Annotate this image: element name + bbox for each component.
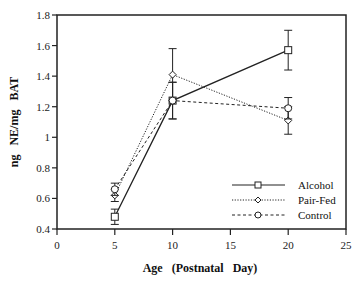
square-marker-icon xyxy=(255,182,261,188)
series-control xyxy=(111,82,292,195)
diamond-marker-icon xyxy=(169,71,176,78)
x-axis-ticks: 0510152025 xyxy=(54,229,352,251)
x-tick-label: 10 xyxy=(167,239,179,251)
x-tick-label: 5 xyxy=(112,239,118,251)
y-tick-label: 1.2 xyxy=(36,101,50,113)
y-tick-label: 1.6 xyxy=(36,40,50,52)
circle-marker-icon xyxy=(255,212,261,218)
series-layer xyxy=(111,30,292,224)
y-tick-label: 0.6 xyxy=(36,192,50,204)
y-axis-ticks: 0.40.60.811.21.41.61.8 xyxy=(36,9,57,235)
line-chart: 0.40.60.811.21.41.61.8 0510152025 Age (P… xyxy=(0,0,362,289)
x-axis-title: Age (Postnatal Day) xyxy=(143,261,258,275)
circle-marker-icon xyxy=(169,97,176,104)
x-tick-label: 25 xyxy=(341,239,353,251)
legend-item-control: Control xyxy=(232,209,332,221)
y-tick-label: 1 xyxy=(45,131,51,143)
diamond-marker-icon xyxy=(255,197,261,203)
series-pair-fed xyxy=(111,49,292,202)
x-tick-label: 15 xyxy=(225,239,237,251)
y-tick-label: 1.8 xyxy=(36,9,50,21)
legend-label-control: Control xyxy=(298,209,332,221)
x-tick-label: 20 xyxy=(283,239,295,251)
y-tick-label: 0.8 xyxy=(36,162,50,174)
series-alcohol xyxy=(111,30,292,224)
legend-label-alcohol: Alcohol xyxy=(298,179,333,191)
y-tick-label: 1.4 xyxy=(36,70,50,82)
legend-label-pair-fed: Pair-Fed xyxy=(298,194,336,206)
square-marker-icon xyxy=(111,213,118,220)
legend: Alcohol Pair-Fed Control xyxy=(232,179,336,221)
legend-item-alcohol: Alcohol xyxy=(232,179,333,191)
circle-marker-icon xyxy=(285,105,292,112)
y-tick-label: 0.4 xyxy=(36,223,50,235)
x-tick-label: 0 xyxy=(54,239,60,251)
circle-marker-icon xyxy=(111,186,118,193)
legend-item-pair-fed: Pair-Fed xyxy=(232,194,336,206)
square-marker-icon xyxy=(285,47,292,54)
y-axis-title: ng NE/mg BAT xyxy=(7,77,21,167)
